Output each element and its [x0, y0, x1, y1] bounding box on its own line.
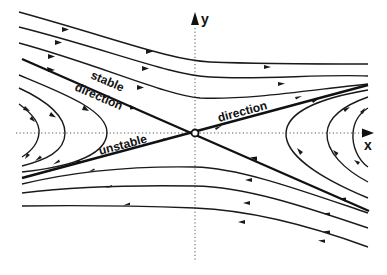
phase-portrait-diagram: x y: [0, 0, 387, 275]
x-axis-label: x: [364, 137, 372, 153]
trajectory: [19, 27, 368, 78]
upper-trajectories: [19, 12, 368, 100]
labels: stable direction unstable direction: [73, 68, 269, 158]
unstable-direction-label: direction: [216, 98, 269, 125]
trajectory: [19, 43, 368, 98]
trajectory: [327, 97, 368, 182]
y-axis-arrow-icon: [191, 12, 199, 25]
trajectory: [286, 90, 368, 198]
unstable-label: unstable: [97, 132, 149, 158]
trajectory: [22, 186, 368, 228]
lower-trajectories: [22, 167, 368, 247]
y-axis-label: y: [201, 11, 209, 27]
right-trajectories: [286, 90, 368, 198]
saddle-point-marker: [192, 130, 199, 137]
trajectory: [19, 104, 39, 157]
